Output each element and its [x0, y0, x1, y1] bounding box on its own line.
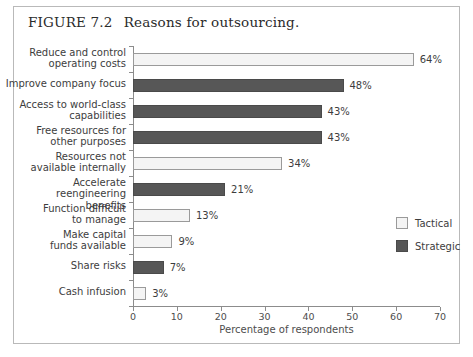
y-axis-tick: [129, 228, 133, 229]
y-axis-tick: [129, 176, 133, 177]
y-axis-tick: [129, 124, 133, 125]
category-label: Share risks: [71, 260, 126, 272]
x-axis-tick-label: 10: [171, 311, 183, 322]
bar-value-label: 43%: [328, 106, 350, 117]
bar: [133, 131, 322, 144]
legend-item-tactical: Tactical: [396, 217, 460, 229]
bar-value-label: 43%: [328, 132, 350, 143]
bar-value-label: 7%: [170, 262, 186, 273]
bar: [133, 183, 225, 196]
category-label: Access to world-class capabilities: [19, 99, 126, 122]
bar: [133, 209, 190, 222]
y-axis-tick: [129, 72, 133, 73]
category-label: Function difficult to manage: [43, 203, 126, 226]
bar: [133, 79, 344, 92]
y-axis-tick: [129, 254, 133, 255]
category-label: Cash infusion: [59, 286, 126, 298]
category-label: Improve company focus: [6, 78, 126, 90]
bar: [133, 235, 172, 248]
category-label: Resources not available internally: [31, 151, 126, 174]
legend-label-strategic: Strategic: [415, 241, 460, 252]
bar-value-label: 34%: [288, 158, 310, 169]
category-label: Free resources for other purposes: [36, 125, 126, 148]
bar: [133, 287, 146, 300]
bar-chart: 010203040506070 Reduce and control opera…: [0, 0, 473, 357]
x-axis-tick-label: 0: [130, 311, 136, 322]
bar-value-label: 64%: [420, 54, 442, 65]
legend-swatch-strategic-icon: [396, 240, 408, 252]
y-axis-tick: [129, 280, 133, 281]
y-axis-tick: [129, 150, 133, 151]
legend-item-strategic: Strategic: [396, 240, 460, 252]
bar-value-label: 21%: [231, 184, 253, 195]
x-axis-line: [133, 306, 440, 307]
category-label: Make capital funds available: [50, 229, 126, 252]
bar: [133, 157, 282, 170]
bar: [133, 261, 164, 274]
chart-legend: Tactical Strategic: [396, 217, 460, 263]
bar-value-label: 3%: [152, 288, 168, 299]
bar: [133, 105, 322, 118]
y-axis-tick: [129, 98, 133, 99]
bar-value-label: 9%: [178, 236, 194, 247]
bar: [133, 53, 414, 66]
x-axis-tick-label: 20: [215, 311, 227, 322]
legend-swatch-tactical-icon: [396, 217, 408, 229]
legend-label-tactical: Tactical: [415, 218, 452, 229]
bar-value-label: 48%: [350, 80, 372, 91]
x-axis-label: Percentage of respondents: [133, 324, 440, 335]
x-axis-tick-label: 30: [259, 311, 271, 322]
x-axis-tick-label: 60: [390, 311, 402, 322]
y-axis-tick: [129, 46, 133, 47]
x-axis-tick-label: 70: [434, 311, 446, 322]
bar-value-label: 13%: [196, 210, 218, 221]
y-axis-tick: [129, 306, 133, 307]
x-axis-tick-label: 40: [302, 311, 314, 322]
y-axis-tick: [129, 202, 133, 203]
category-label: Reduce and control operating costs: [29, 47, 126, 70]
x-axis-tick-label: 50: [346, 311, 358, 322]
